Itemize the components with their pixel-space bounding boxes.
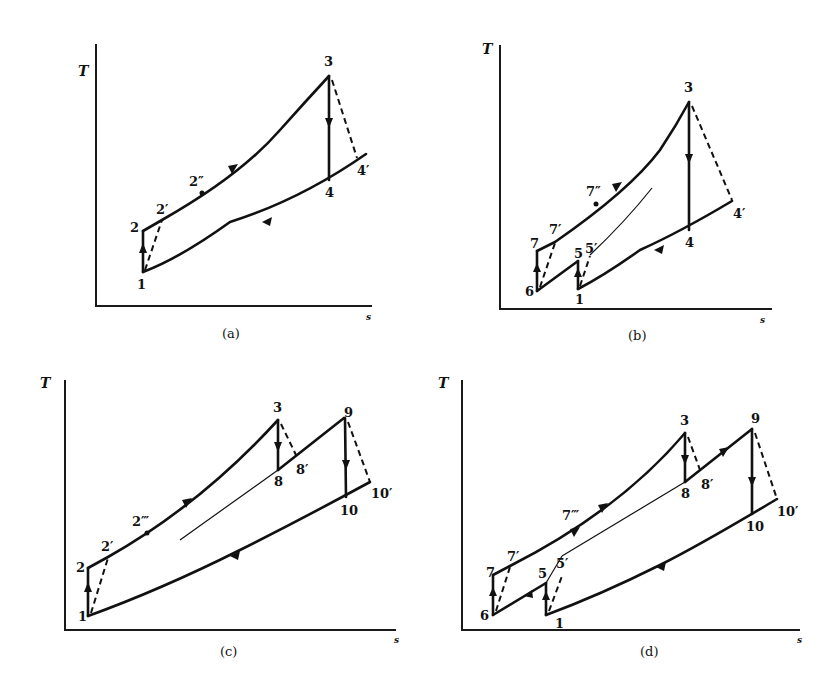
- panel-a-label-3: 3: [324, 54, 333, 69]
- panel-a-axes: [96, 44, 372, 306]
- panel-d-heat-addition-curve: [493, 433, 685, 575]
- panel-c-reheat-line: [278, 418, 344, 470]
- panel-d-lp-actual-expansion: [755, 433, 777, 499]
- panel-c-caption: (c): [220, 644, 237, 659]
- panel-d-arrow-lp-down-icon: [748, 477, 756, 487]
- panel-b-label-4p: 4′: [733, 206, 746, 221]
- panel-d-heat-rejection-curve: [546, 499, 777, 615]
- panel-d-label-10: 10: [746, 519, 764, 534]
- panel-b-label-4: 4: [685, 235, 694, 250]
- panel-d-label-8p: 8′: [701, 477, 714, 492]
- panel-b-label-7p: 7′: [549, 222, 562, 237]
- panel-c-label-1: 1: [78, 609, 87, 624]
- panel-c-label-8: 8: [274, 474, 283, 489]
- panel-c-point-2ppp-dot: [145, 531, 150, 536]
- panel-d-x-axis-label: s: [797, 635, 802, 645]
- panel-c-x-axis-label: s: [394, 635, 399, 645]
- panel-d-axes: [462, 380, 800, 630]
- panel-b-label-7pp: 7″: [586, 184, 601, 199]
- panel-a: T s (a) 1 2 2′ 2″ 3 4 4′: [78, 44, 372, 341]
- panel-c-label-2: 2: [76, 560, 85, 575]
- panel-c-heat-rejection-curve: [88, 482, 370, 616]
- panel-d-reheat-line: [685, 429, 752, 482]
- panel-c-arrow-up-icon: [84, 582, 92, 592]
- panel-b-caption: (b): [628, 328, 646, 343]
- panel-a-point-2pp-dot: [200, 191, 205, 196]
- panel-d-label-6: 6: [480, 608, 489, 623]
- panel-b-actual-expansion: [692, 106, 732, 200]
- panel-d-caption: (d): [640, 644, 658, 659]
- panel-a-arrow-down-icon: [325, 118, 333, 128]
- panel-b-arrow-hp-up-icon: [533, 263, 541, 272]
- panel-c-label-2ppp: 2‴: [132, 514, 149, 529]
- panel-d-label-7: 7: [486, 565, 495, 580]
- panel-b-label-6: 6: [525, 284, 534, 299]
- panel-d-y-axis-label: T: [438, 375, 450, 391]
- panel-a-y-axis-label: T: [78, 63, 90, 79]
- panel-d-arrow-hp-down-icon: [681, 455, 689, 465]
- panel-a-label-4p: 4′: [357, 163, 370, 178]
- panel-a-label-4: 4: [325, 185, 334, 200]
- panel-b-label-1: 1: [575, 292, 584, 307]
- panel-c-label-10p: 10′: [371, 486, 393, 501]
- panel-a-label-1: 1: [137, 277, 146, 292]
- panel-d-lp-actual-compression: [549, 576, 562, 611]
- panel-d-label-7ppp: 7‴: [562, 508, 579, 523]
- panel-c-y-axis-label: T: [40, 375, 52, 391]
- panel-b-label-5p: 5′: [585, 241, 598, 256]
- panel-c-label-9: 9: [344, 405, 353, 420]
- panel-d-intercooling: [493, 583, 546, 615]
- panel-d-label-5: 5: [538, 566, 547, 581]
- panel-d-label-8: 8: [681, 486, 690, 501]
- panel-b-y-axis-label: T: [482, 41, 494, 57]
- panel-c-label-2p: 2′: [101, 539, 114, 554]
- panel-b-point-7pp-dot: [594, 202, 599, 207]
- panel-b-label-5: 5: [574, 246, 583, 261]
- panel-c-hp-actual-expansion: [281, 424, 296, 455]
- panel-c-constant-pressure-line: [180, 470, 278, 540]
- panel-b-label-3: 3: [684, 80, 693, 95]
- panel-c: T s (c) 1 2 2′ 2‴ 3 8 8′ 9 10 10′: [40, 375, 399, 659]
- panel-c-label-8p: 8′: [296, 462, 309, 477]
- panel-a-arrow-reject-icon: [262, 217, 272, 226]
- panel-a-caption: (a): [222, 326, 240, 341]
- panel-c-arrow-hp-down-icon: [274, 442, 282, 452]
- panel-b-arrow-down-icon: [685, 154, 693, 164]
- panel-d-label-7p: 7′: [507, 549, 520, 564]
- panel-d-arrow-heat2-icon: [570, 527, 580, 537]
- panel-d-label-1: 1: [555, 616, 564, 631]
- panel-c-label-10: 10: [340, 503, 358, 518]
- panel-b-arrow-reject-icon: [654, 245, 664, 254]
- panel-a-label-2pp: 2″: [189, 174, 204, 189]
- panel-b-label-7: 7: [530, 236, 539, 251]
- panel-d-label-10p: 10′: [777, 504, 799, 519]
- panel-a-x-axis-label: s: [366, 312, 371, 322]
- panel-d-label-3: 3: [680, 413, 689, 428]
- panel-a-label-2: 2: [130, 220, 139, 235]
- panel-b-arrow-lp-up-icon: [574, 268, 582, 277]
- panel-c-label-3: 3: [273, 400, 282, 415]
- panel-d: T s (d) 1 5 5′: [438, 375, 802, 659]
- panel-a-actual-expansion: [332, 80, 357, 158]
- panel-c-lp-expansion: [345, 418, 346, 497]
- panel-b: T s (b) 1 5 5′ 6 7 7′ 7″ 3 4 4′: [482, 41, 772, 343]
- ts-diagram-figure: T s (a) 1 2 2′ 2″ 3 4 4′ T s (b): [0, 0, 838, 685]
- panel-a-arrow-up-icon: [139, 243, 147, 253]
- panel-c-arrow-lp-down-icon: [342, 460, 350, 470]
- panel-a-label-2p: 2′: [156, 202, 169, 217]
- panel-b-x-axis-label: s: [760, 315, 765, 325]
- panel-d-label-5p: 5′: [556, 556, 569, 571]
- panel-d-arrow-hp-up-icon: [489, 587, 497, 596]
- panel-d-arrow-lp-up-icon: [542, 591, 550, 600]
- panel-c-lp-actual-expansion: [348, 422, 370, 482]
- panel-d-hp-actual-expansion: [688, 437, 700, 470]
- panel-d-label-9: 9: [751, 411, 760, 426]
- panel-a-heat-addition-curve: [143, 76, 329, 231]
